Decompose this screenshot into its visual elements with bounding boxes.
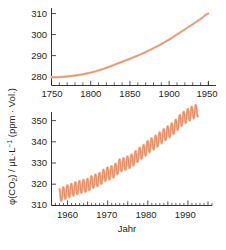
- top-ytick-310: 310: [31, 8, 47, 19]
- top-panel-y-tick-labels: 310 300 290 280: [31, 8, 47, 82]
- bottom-xtick-1970: 1970: [96, 209, 117, 220]
- bottom-panel-x-tick-labels: 1960 1970 1980 1990: [57, 209, 196, 220]
- top-xtick-1850: 1850: [119, 88, 140, 99]
- top-panel-co2-curve: [52, 14, 209, 78]
- bottom-ytick-350: 350: [31, 115, 47, 126]
- top-panel-x-minor-ticks: [59, 82, 208, 85]
- bottom-ytick-310: 310: [31, 199, 47, 210]
- x-axis-title: Jahr: [118, 223, 136, 234]
- top-ytick-280: 280: [31, 71, 47, 82]
- bottom-ytick-340: 340: [31, 136, 47, 147]
- bottom-panel-keeling-curve: [60, 105, 198, 201]
- top-ytick-300: 300: [31, 29, 47, 40]
- top-xtick-1800: 1800: [80, 88, 101, 99]
- y-axis-label: φ(CO2) / μL·L−1 (ppm · Vol.): [6, 88, 18, 205]
- bottom-ytick-330: 330: [31, 157, 47, 168]
- bottom-xtick-1990: 1990: [175, 209, 196, 220]
- bottom-panel-y-tick-labels: 350 340 330 320 310: [31, 115, 47, 210]
- top-xtick-1750: 1750: [41, 88, 62, 99]
- top-xtick-1950: 1950: [196, 88, 217, 99]
- bottom-xtick-1980: 1980: [135, 209, 156, 220]
- y-axis-label-group: φ(CO2) / μL·L−1 (ppm · Vol.): [6, 88, 18, 205]
- top-xtick-1900: 1900: [159, 88, 180, 99]
- bottom-panel-x-ticks: [56, 201, 212, 206]
- bottom-panel-y-ticks: [52, 121, 57, 206]
- co2-concentration-figure: φ(CO2) / μL·L−1 (ppm · Vol.) 310 300 290…: [0, 0, 226, 250]
- bottom-panel: 350 340 330 320 310 1960: [31, 105, 212, 234]
- bottom-ytick-320: 320: [31, 178, 47, 189]
- bottom-xtick-1960: 1960: [57, 209, 78, 220]
- figure-canvas: φ(CO2) / μL·L−1 (ppm · Vol.) 310 300 290…: [0, 0, 226, 250]
- top-ytick-290: 290: [31, 50, 47, 61]
- top-panel-y-ticks: [52, 14, 57, 77]
- top-panel-x-tick-labels: 1750 1800 1850 1900 1950: [41, 88, 217, 99]
- top-panel: 310 300 290 280: [31, 8, 217, 99]
- top-panel-curve-halo: [52, 14, 209, 78]
